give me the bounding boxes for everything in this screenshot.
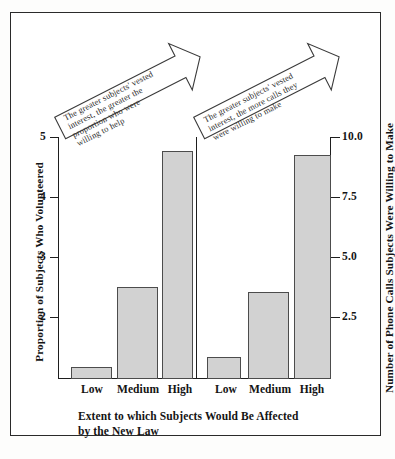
left-tick-mark	[50, 197, 59, 198]
bar-left-medium	[117, 287, 158, 379]
bar-left-high	[162, 151, 193, 379]
bar-right-high	[294, 155, 331, 379]
callout-volunteered: The greater subjects' vested interest, t…	[57, 22, 217, 150]
left-tick-mark	[50, 137, 59, 138]
plot-area: The greater subjects' vested interest, t…	[0, 0, 395, 459]
bar-right-medium	[248, 292, 289, 379]
right-tick-label: 7.5	[342, 190, 376, 202]
right-axis-title: Number of Phone Calls Subjects Were Will…	[383, 123, 395, 393]
xtick-label-left-high: High	[156, 383, 204, 395]
right-tick-mark	[331, 137, 340, 138]
right-tick-mark	[331, 197, 340, 198]
x-axis-title-line2: by the New Law	[78, 424, 328, 439]
bar-right-low	[207, 357, 241, 379]
right-tick-mark	[331, 257, 340, 258]
callout-calls: The greater subjects' vested interest, t…	[196, 22, 356, 150]
left-tick-mark	[50, 317, 59, 318]
panel-divider	[196, 137, 197, 379]
x-axis-title: Extent to which Subjects Would Be Affect…	[78, 409, 328, 438]
bar-left-low	[71, 367, 112, 379]
xtick-label-right-high: High	[288, 383, 336, 395]
x-axis-title-line1: Extent to which Subjects Would Be Affect…	[78, 409, 328, 424]
left-axis-title: Proportion of Subjects Who Volunteered	[33, 147, 45, 377]
left-tick-label: 5	[20, 130, 46, 142]
right-tick-label: 2.5	[342, 310, 376, 322]
left-tick-mark	[50, 257, 59, 258]
figure-container: The greater subjects' vested interest, t…	[0, 0, 395, 459]
right-tick-label: 10.0	[342, 130, 376, 142]
right-tick-mark	[331, 317, 340, 318]
right-tick-label: 5.0	[342, 250, 376, 262]
